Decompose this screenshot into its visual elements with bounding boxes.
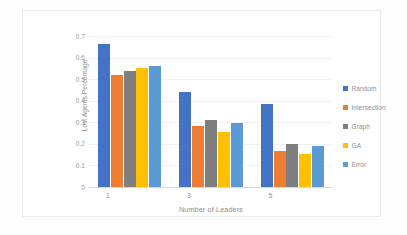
chart-legend: RandomIntersectionGraphGAError: [343, 79, 403, 174]
y-tick-label: 0.1: [57, 162, 85, 169]
y-tick-label: 0.3: [57, 119, 85, 126]
x-tick-label: 5: [250, 192, 290, 199]
bar: [231, 123, 243, 187]
bar: [98, 44, 110, 187]
y-axis-tick-labels: 00.10.20.30.40.50.60.7: [55, 36, 85, 187]
chart-figure: Lost Agents Percentage 00.10.20.30.40.50…: [0, 0, 407, 235]
plot-area: [89, 36, 333, 187]
legend-label: Intersection: [352, 104, 386, 111]
x-axis-title: Number of Leaders: [89, 205, 333, 214]
x-axis-line: [89, 187, 333, 188]
x-tick-label: 3: [169, 192, 209, 199]
y-tick-label: 0.6: [57, 54, 85, 61]
bar: [274, 151, 286, 187]
bar-group: [98, 36, 161, 187]
legend-swatch-icon: [343, 86, 348, 91]
x-tick-label: 1: [88, 192, 128, 199]
legend-item: Intersection: [343, 98, 403, 117]
legend-item: GA: [343, 136, 403, 155]
bar: [124, 71, 136, 187]
legend-label: GA: [352, 142, 362, 149]
y-tick-label: 0.5: [57, 76, 85, 83]
legend-label: Graph: [352, 123, 370, 130]
bar: [299, 154, 311, 187]
legend-swatch-icon: [343, 162, 348, 167]
legend-swatch-icon: [343, 124, 348, 129]
legend-label: Random: [352, 85, 377, 92]
y-tick-label: 0.7: [57, 33, 85, 40]
legend-item: Random: [343, 79, 403, 98]
legend-swatch-icon: [343, 143, 348, 148]
bar: [192, 126, 204, 187]
bar: [218, 132, 230, 187]
bar: [111, 75, 123, 187]
bar: [205, 120, 217, 187]
legend-swatch-icon: [343, 105, 348, 110]
bar: [312, 146, 324, 187]
bar-group: [179, 36, 242, 187]
legend-item: Error: [343, 155, 403, 174]
chart-frame: Lost Agents Percentage 00.10.20.30.40.50…: [22, 10, 381, 217]
y-tick-label: 0: [57, 184, 85, 191]
legend-item: Graph: [343, 117, 403, 136]
legend-label: Error: [352, 161, 367, 168]
y-tick-label: 0.4: [57, 97, 85, 104]
bar: [136, 68, 148, 187]
bar-group: [261, 36, 324, 187]
bar: [179, 92, 191, 187]
bar: [261, 104, 273, 187]
bar: [149, 66, 161, 187]
y-tick-label: 0.2: [57, 140, 85, 147]
bar: [286, 144, 298, 187]
